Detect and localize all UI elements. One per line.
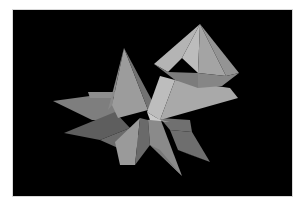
polyhedra-render	[0, 0, 308, 204]
